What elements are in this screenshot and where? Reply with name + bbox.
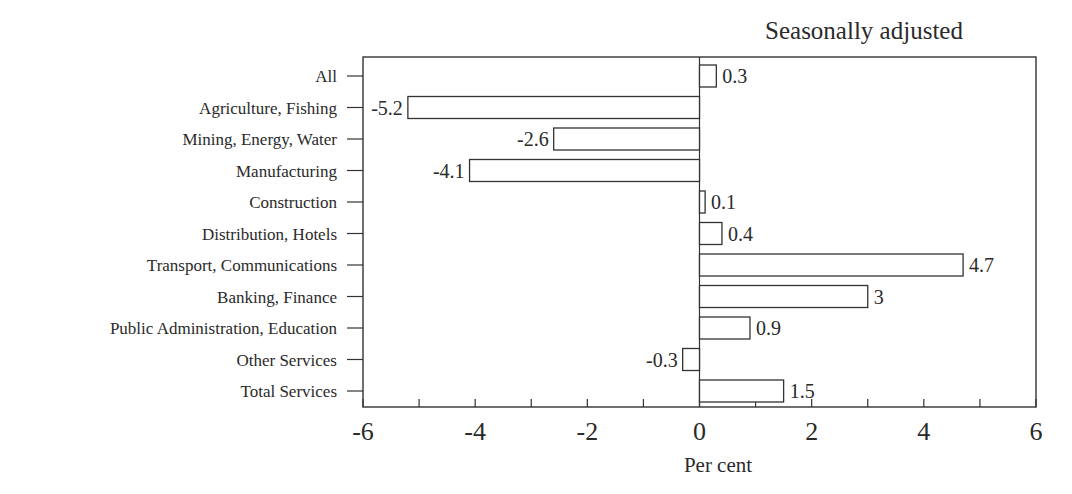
- value-label: 0.9: [756, 317, 781, 339]
- category-label: Distribution, Hotels: [202, 225, 337, 244]
- category-label: Banking, Finance: [217, 288, 337, 307]
- category-label: Other Services: [236, 351, 337, 370]
- x-tick-label: -4: [464, 417, 486, 446]
- x-tick-label: 4: [917, 417, 930, 446]
- bar-banking-finance: [700, 286, 868, 308]
- value-label: 0.1: [711, 191, 736, 213]
- bar-all: [700, 65, 717, 87]
- value-label: -2.6: [517, 128, 549, 150]
- bar-total-services: [700, 380, 784, 402]
- x-tick-label: 0: [693, 417, 706, 446]
- plot-area: -6-4-20246All0.3Agriculture, Fishing-5.2…: [110, 57, 1043, 446]
- value-label: -5.2: [371, 97, 403, 119]
- value-label: 0.3: [722, 65, 747, 87]
- x-tick-label: -2: [576, 417, 598, 446]
- x-tick-label: 6: [1030, 417, 1043, 446]
- bar-chart: Seasonally adjusted -6-4-20246All0.3Agri…: [0, 0, 1072, 494]
- bar-mining-energy-water: [554, 128, 700, 150]
- category-label: All: [315, 67, 337, 86]
- value-label: 3: [874, 286, 884, 308]
- value-label: 4.7: [969, 254, 994, 276]
- category-label: Public Administration, Education: [110, 319, 338, 338]
- bar-transport-communications: [700, 254, 964, 276]
- chart-title: Seasonally adjusted: [765, 17, 963, 44]
- value-label: -0.3: [646, 349, 678, 371]
- x-tick-label: -6: [352, 417, 374, 446]
- bar-public-administration-education: [700, 317, 750, 339]
- bar-agriculture-fishing: [408, 97, 700, 119]
- category-label: Agriculture, Fishing: [199, 99, 337, 118]
- category-label: Total Services: [240, 382, 337, 401]
- bar-construction: [700, 191, 706, 213]
- x-tick-label: 2: [805, 417, 818, 446]
- x-axis-title: Per cent: [684, 453, 752, 477]
- bar-distribution-hotels: [700, 223, 722, 245]
- bar-manufacturing: [470, 160, 700, 182]
- category-label: Manufacturing: [236, 162, 338, 181]
- category-label: Mining, Energy, Water: [182, 130, 337, 149]
- bar-other-services: [683, 349, 700, 371]
- value-label: 1.5: [790, 380, 815, 402]
- category-label: Transport, Communications: [147, 256, 337, 275]
- value-label: 0.4: [728, 223, 753, 245]
- category-label: Construction: [249, 193, 337, 212]
- value-label: -4.1: [433, 160, 465, 182]
